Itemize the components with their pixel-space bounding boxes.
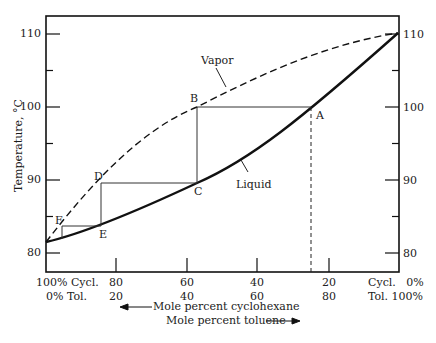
y-tick-right-80: 80: [403, 248, 417, 260]
y-tick-left-110: 110: [11, 28, 41, 40]
y-tick-left-80: 80: [11, 247, 41, 259]
x-tick-cycl-80: 80: [104, 277, 128, 289]
vapor-leader: [216, 68, 226, 87]
y-tick-right-90: 90: [403, 175, 417, 187]
point-c-label: C: [194, 186, 202, 198]
x-axis-label-toluene: Mole percent toluene: [166, 315, 286, 327]
point-a-label: A: [316, 110, 324, 122]
point-d-label: D: [94, 171, 103, 183]
x-ticks: [116, 258, 329, 272]
point-e-label: E: [99, 229, 107, 241]
x-axis-label-cyclohexane: Mole percent cyclohexane: [153, 301, 300, 313]
x-tick-cycl-40: 40: [245, 277, 269, 289]
x-tick-cycl-60: 60: [175, 277, 199, 289]
x-tick-cycl-20: 20: [317, 277, 341, 289]
y-tick-right-100: 100: [403, 102, 424, 114]
y-tick-left-90: 90: [11, 174, 41, 186]
x-tick-tol-20: 20: [104, 291, 128, 303]
x-left-end-cycl: 100% Cycl.: [36, 277, 99, 289]
y-ticks-right: [385, 34, 399, 253]
x-tick-tol-80: 80: [317, 291, 341, 303]
x-right-end-tol: Tol. 100%: [368, 291, 423, 303]
vapor-label: Vapor: [201, 55, 233, 67]
x-left-end-tol: 0% Tol.: [46, 291, 87, 303]
x-right-end-cycl: Cycl. 0%: [368, 277, 424, 289]
point-b-label: B: [190, 93, 198, 105]
y-tick-right-110: 110: [403, 29, 424, 41]
y-tick-left-100: 100: [11, 101, 41, 113]
liquid-leader: [241, 160, 248, 172]
liquid-label: Liquid: [236, 179, 272, 191]
point-f-label: F: [55, 215, 63, 227]
